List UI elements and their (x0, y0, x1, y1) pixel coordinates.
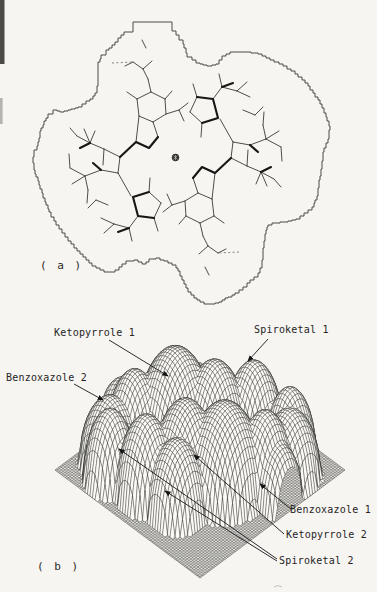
inversion-center-symbol (172, 154, 179, 161)
annotation-benzoxazole-1: Benzoxazole 1 (290, 504, 371, 515)
molecule-left (69, 40, 188, 241)
annotation-ketopyrrole-1: Ketopyrrole 1 (54, 327, 135, 338)
annotation-benzoxazole-2: Benzoxazole 2 (6, 372, 87, 383)
annotation-ketopyrrole-2: Ketopyrrole 2 (286, 529, 367, 540)
scan-artifact (0, 98, 3, 124)
annotation-spiroketal-1: Spiroketal 1 (254, 324, 329, 335)
panel-b-label: ( b ) (37, 561, 80, 573)
scanned-figure-page: ( a ) Ketopyrrole 1 Spiroketal 1 Benzoxa… (0, 0, 377, 592)
scan-artifact (274, 586, 282, 588)
panel-a-label: ( a ) (40, 260, 83, 272)
scan-artifact (0, 0, 5, 64)
surface-plot (55, 339, 345, 578)
annotation-spiroketal-2: Spiroketal 2 (279, 555, 354, 566)
